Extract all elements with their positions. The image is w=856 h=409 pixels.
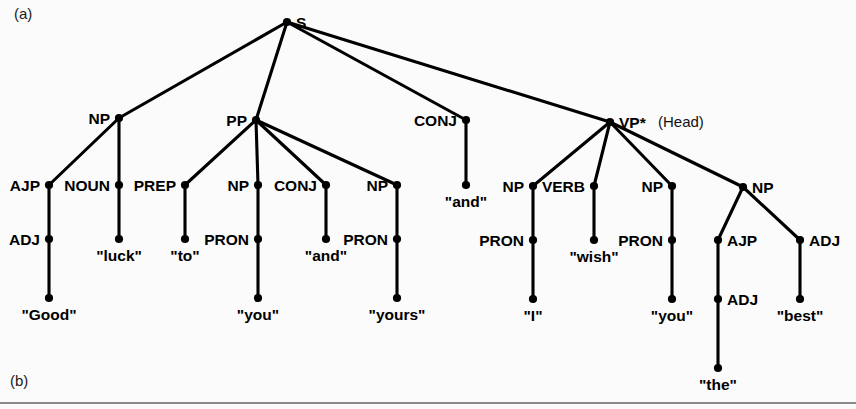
tree-node-label: NP [227, 177, 249, 194]
tree-edge [256, 120, 397, 185]
tree-leaf-label: "yours" [369, 306, 426, 323]
tree-edge [256, 120, 258, 185]
tree-node-label: PREP [134, 177, 176, 194]
tree-leaf-label: "you" [651, 307, 693, 324]
tree-leaf-label: "best" [777, 307, 824, 324]
tree-leaf-label: "Good" [21, 306, 76, 323]
tree-leaf-label: "the" [699, 376, 737, 393]
tree-node-dot [796, 236, 804, 244]
figure-root: (a) SNPPPCONJVP*AJPNOUNPREPNPCONJNPNPVER… [0, 0, 856, 409]
syntax-tree-canvas: SNPPPCONJVP*AJPNOUNPREPNPCONJNPNPVERBNPN… [0, 0, 856, 409]
horizontal-rule [0, 402, 856, 404]
tree-node-dot [254, 181, 262, 189]
tree-node-label: VP* [619, 114, 647, 131]
tree-node-dot [254, 235, 262, 243]
tree-edge [610, 122, 672, 186]
tree-edge [287, 22, 466, 120]
tree-leaf-label: "you" [237, 306, 279, 323]
tree-leaf-dot [393, 294, 401, 302]
tree-node-label: NOUN [64, 177, 110, 194]
tree-leaf-dot [322, 235, 330, 243]
tree-node-dot [252, 116, 260, 124]
tree-node-label: NP [366, 177, 388, 194]
tree-node-dot [714, 295, 722, 303]
tree-node-dot [668, 236, 676, 244]
tree-node-label: PRON [479, 232, 524, 249]
tree-node-label: PRON [204, 231, 249, 248]
tree-node-dot [714, 236, 722, 244]
tree-node-dot [393, 181, 401, 189]
tree-leaf-dot [714, 364, 722, 372]
tree-leaf-dot [529, 295, 537, 303]
tree-node-label: S [296, 14, 306, 31]
tree-node-label: VERB [542, 178, 585, 195]
tree-edge [49, 118, 119, 185]
tree-node-dot [529, 182, 537, 190]
tree-leaf-label: "luck" [96, 247, 142, 264]
tree-edge [610, 122, 743, 187]
tree-node-label: PRON [343, 231, 388, 248]
tree-leaf-dot [181, 235, 189, 243]
tree-leaf-label: "and" [445, 193, 487, 210]
tree-leaf-label: "wish" [569, 248, 618, 265]
tree-leaf-label-layer: "Good""luck""to""you""and""yours""and""I… [21, 193, 823, 393]
tree-leaf-dot [462, 181, 470, 189]
tree-node-dot [590, 182, 598, 190]
tree-node-dot [393, 235, 401, 243]
tree-node-dot [462, 116, 470, 124]
tree-leaf-label: "to" [170, 247, 199, 264]
tree-node-label: PP [226, 112, 247, 129]
tree-node-label: NP [502, 178, 524, 195]
tree-leaf-dot [45, 294, 53, 302]
tree-node-dot [45, 181, 53, 189]
tree-edge [185, 120, 256, 185]
tree-leaf-label: "and" [305, 247, 347, 264]
tree-leaf-dot [796, 295, 804, 303]
tree-node-label: AJP [727, 232, 757, 249]
tree-leaf-label: "I" [523, 307, 542, 324]
tree-leaf-dot [115, 235, 123, 243]
panel-b-label: (b) [10, 372, 28, 389]
tree-node-dot [115, 114, 123, 122]
tree-leaf-dot [668, 295, 676, 303]
tree-node-label: CONJ [274, 177, 317, 194]
tree-node-label: NP [752, 179, 774, 196]
tree-annotation-layer: (Head) [658, 113, 704, 130]
tree-node-label: ADJ [809, 232, 840, 249]
tree-node-label: ADJ [9, 231, 40, 248]
tree-node-dot [606, 118, 614, 126]
tree-node-label: AJP [10, 177, 40, 194]
tree-node-label: CONJ [414, 112, 457, 129]
tree-node-dot [181, 181, 189, 189]
tree-node-dot [115, 181, 123, 189]
tree-node-label: ADJ [727, 291, 758, 308]
tree-node-dot [668, 182, 676, 190]
tree-node-dot [322, 181, 330, 189]
tree-edge [533, 122, 610, 186]
head-annotation: (Head) [658, 113, 704, 130]
tree-node-label: NP [88, 110, 110, 127]
tree-node-label: NP [641, 178, 663, 195]
tree-node-label: PRON [618, 232, 663, 249]
tree-node-dot [529, 236, 537, 244]
tree-edge [256, 120, 326, 185]
tree-edge [287, 22, 610, 122]
tree-node-dot [283, 18, 291, 26]
tree-node-dot [45, 235, 53, 243]
tree-leaf-dot [590, 236, 598, 244]
tree-leaf-dot [254, 294, 262, 302]
tree-node-dot [739, 183, 747, 191]
